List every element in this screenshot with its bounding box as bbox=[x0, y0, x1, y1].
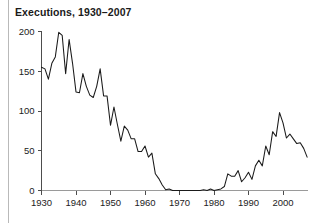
executions-line bbox=[42, 32, 308, 190]
x-tick-label: 1930 bbox=[31, 197, 52, 208]
line-chart-plot: 050100150200 193019401950196019701980199… bbox=[0, 0, 315, 223]
data-series-group bbox=[42, 32, 308, 190]
chart-figure: Executions, 1930–2007 050100150200 19301… bbox=[0, 0, 315, 223]
y-axis: 050100150200 bbox=[19, 26, 42, 196]
x-tick-label: 1970 bbox=[169, 197, 190, 208]
x-tick-label: 1950 bbox=[100, 197, 121, 208]
y-tick-label: 0 bbox=[29, 185, 34, 196]
x-tick-label: 1990 bbox=[238, 197, 259, 208]
x-tick-label: 2000 bbox=[272, 197, 293, 208]
x-tick-label: 1980 bbox=[203, 197, 224, 208]
y-tick-label: 150 bbox=[19, 66, 35, 77]
y-tick-label: 200 bbox=[19, 26, 35, 37]
y-tick-label: 100 bbox=[19, 105, 35, 116]
y-tick-label: 50 bbox=[24, 145, 35, 156]
x-axis: 19301940195019601970198019902000 bbox=[31, 191, 308, 208]
x-tick-label: 1940 bbox=[65, 197, 86, 208]
x-tick-label: 1960 bbox=[134, 197, 155, 208]
